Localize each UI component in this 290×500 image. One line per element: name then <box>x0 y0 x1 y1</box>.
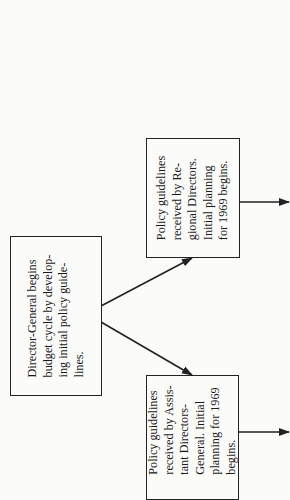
node-line: General. Initial <box>193 385 209 474</box>
node-line: begins. <box>224 385 240 474</box>
node-text: Policy guidelines received by Assis- tan… <box>146 385 240 474</box>
node-line: Policy guidelines <box>146 385 162 474</box>
node-text: Director-General begins budget cycle by … <box>25 255 87 378</box>
node-line: budget cycle by develop- <box>40 255 56 378</box>
node-line: planning for 1969 <box>208 385 224 474</box>
node-line: tant Directors- <box>177 385 193 474</box>
node-line: gional Directors. <box>185 156 201 240</box>
node-assistant-directors-general: Policy guidelines received by Assis- tan… <box>146 375 239 500</box>
node-line: lines. <box>72 255 88 378</box>
arrow-dg-to-adg <box>101 322 192 375</box>
arrow-dg-to-regional <box>101 258 192 306</box>
node-line: ing initial policy guide- <box>56 255 72 378</box>
node-line: for 1969 begins. <box>216 156 232 240</box>
node-line: received by Re- <box>170 156 186 240</box>
node-director-general: Director-General begins budget cycle by … <box>10 236 102 396</box>
node-line: Initial planning <box>201 156 217 240</box>
node-line: Director-General begins <box>25 255 41 378</box>
node-line: Policy guidelines <box>154 156 170 240</box>
node-text: Policy guidelines received by Re- gional… <box>154 156 232 240</box>
node-line: received by Assis- <box>161 385 177 474</box>
node-regional-directors: Policy guidelines received by Re- gional… <box>146 138 240 258</box>
